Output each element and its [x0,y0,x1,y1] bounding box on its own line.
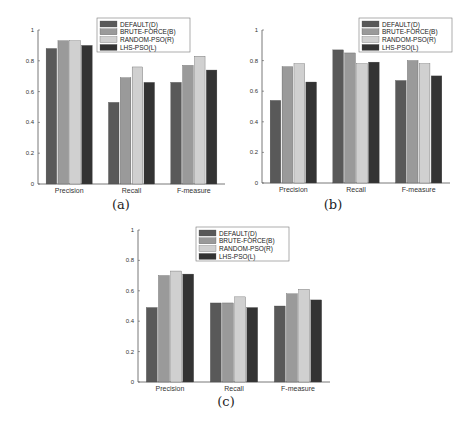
legend-label: LHS-PSO(L) [120,44,156,52]
bar [144,82,155,184]
y-tick-label: 1 [131,227,135,233]
bar [158,276,169,382]
bar [120,78,131,184]
legend-swatch [362,44,379,50]
legend-label: DEFAULT(D) [120,21,158,29]
bar [286,294,297,382]
bar [431,76,442,183]
bar [311,300,322,382]
x-tick-label: F-measure [281,385,315,392]
bar [270,100,281,183]
bar [306,82,317,183]
legend-swatch [100,29,117,35]
legend-label: RANDOM-PSO(R) [219,245,273,253]
y-tick-label: 0 [255,180,259,186]
legend-label: DEFAULT(D) [382,21,420,29]
y-tick-label: 0.2 [250,149,259,155]
x-tick-label: Precision [279,186,308,193]
legend-label: RANDOM-PSO(R) [382,36,436,44]
legend-swatch [199,253,216,259]
bar [235,297,246,382]
legend-label: LHS-PSO(L) [219,253,255,261]
y-tick-label: 0.6 [126,288,135,294]
y-tick-label: 0.2 [26,150,35,156]
legend-label: DEFAULT(D) [219,230,257,238]
bar [419,64,430,183]
bar [333,50,344,183]
legend-swatch [199,238,216,244]
bar [210,303,221,382]
bar [222,303,233,382]
legend-label: BRUTE-FORCE(B) [219,237,275,245]
bar [345,53,356,183]
legend-swatch [199,246,216,252]
bar [183,274,194,382]
legend-label: RANDOM-PSO(R) [120,36,174,44]
legend-swatch [100,37,117,43]
bar [108,102,119,184]
bar [206,70,217,184]
legend-label: LHS-PSO(L) [382,44,418,52]
chart-a: 00.20.40.60.81PrecisionRecallF-measureDE… [0,0,230,200]
caption-c: (c) [206,394,246,409]
bar [369,62,380,183]
bar [146,308,157,382]
y-tick-label: 0.8 [250,58,259,64]
legend-label: BRUTE-FORCE(B) [382,28,438,36]
x-tick-label: Recall [122,187,142,194]
bar [294,64,305,183]
bar [70,41,81,184]
legend-swatch [199,230,216,236]
y-tick-label: 0.8 [126,257,135,263]
bar [171,82,182,184]
bar [395,80,406,183]
y-tick-label: 1 [255,27,259,33]
bar [407,61,418,183]
bar [183,65,194,184]
y-tick-label: 0 [131,379,135,385]
y-tick-label: 0.6 [26,89,35,95]
chart-b: 00.20.40.60.81PrecisionRecallF-measureDE… [225,0,455,200]
x-tick-label: F-measure [402,186,436,193]
chart-c: 00.20.40.60.81PrecisionRecallF-measureDE… [100,210,350,400]
y-tick-label: 0.8 [26,58,35,64]
bar [82,45,93,184]
y-tick-label: 0.6 [250,88,259,94]
y-tick-label: 0.2 [126,349,135,355]
legend-swatch [362,29,379,35]
y-tick-label: 0.4 [26,119,35,125]
bar [132,67,143,184]
legend-swatch [362,21,379,27]
chart-b-svg: 00.20.40.60.81PrecisionRecallF-measureDE… [225,0,455,200]
bar [58,41,69,184]
x-tick-label: Recall [224,385,244,392]
bar [171,271,182,382]
bar [194,56,205,184]
legend-swatch [100,21,117,27]
bar [274,306,285,382]
bar [46,48,57,184]
chart-a-svg: 00.20.40.60.81PrecisionRecallF-measureDE… [0,0,230,200]
x-tick-label: Precision [55,187,84,194]
y-tick-label: 0 [31,181,35,187]
legend-label: BRUTE-FORCE(B) [120,28,176,36]
bar [282,67,293,183]
x-tick-label: F-measure [177,187,211,194]
y-tick-label: 1 [31,27,35,33]
y-tick-label: 0.4 [126,318,135,324]
legend-swatch [362,37,379,43]
x-tick-label: Recall [346,186,366,193]
x-tick-label: Precision [156,385,185,392]
bar [299,289,310,382]
bar [357,64,368,183]
legend-swatch [100,44,117,50]
y-tick-label: 0.4 [250,119,259,125]
chart-c-svg: 00.20.40.60.81PrecisionRecallF-measureDE… [100,210,350,400]
bar [247,308,258,382]
